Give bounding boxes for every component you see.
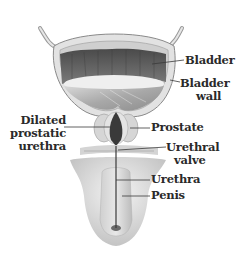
label-urethra: Urethra [151, 173, 200, 186]
label-bladder-wall: Bladder wall [180, 77, 230, 103]
label-penis: Penis [151, 189, 185, 202]
label-urethral-valve: Urethral valve [166, 141, 219, 167]
label-urethral-valve-line2: valve [166, 154, 219, 167]
label-bladder: Bladder [185, 54, 235, 67]
label-dilated-prostatic-urethra: Dilated prostatic urethra [4, 114, 66, 153]
label-bladder-wall-line2: wall [180, 90, 230, 103]
label-prostate: Prostate [151, 121, 204, 134]
label-dilated-line3: urethra [4, 140, 66, 153]
anatomy-diagram: Bladder Bladder wall Dilated prostatic u… [0, 0, 239, 264]
